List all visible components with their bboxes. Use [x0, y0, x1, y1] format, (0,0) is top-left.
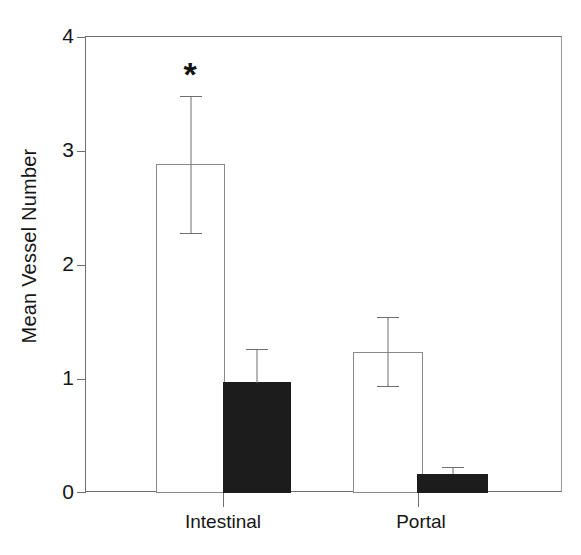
y-tick-mark-2 [77, 265, 86, 266]
error-bar-cap-upper [377, 317, 399, 318]
y-tick-label-2: 2 [40, 252, 74, 276]
error-bar-stem [257, 349, 258, 383]
plot-area: * Intestinal Portal [85, 36, 562, 492]
bar-portal-open [353, 352, 423, 493]
x-tick-mark-portal [418, 493, 419, 507]
error-bar-cap-upper [442, 467, 464, 468]
bar-intestinal-open [156, 164, 225, 494]
bar-chart-figure: Mean Vessel Number 4 3 2 1 0 [0, 0, 581, 555]
x-category-label-intestinal: Intestinal [185, 511, 261, 533]
y-tick-mark-0 [77, 492, 86, 493]
error-bar-portal-filled [417, 37, 488, 493]
error-bar-cap-upper [246, 349, 268, 350]
error-bar-cap-upper [180, 96, 202, 97]
y-tick-mark-1 [77, 379, 86, 380]
x-tick-mark-intestinal [223, 493, 224, 507]
y-tick-mark-4 [77, 37, 86, 38]
y-tick-label-3: 3 [40, 138, 74, 162]
x-category-label-portal: Portal [396, 511, 446, 533]
y-tick-label-1: 1 [40, 366, 74, 390]
y-tick-label-0: 0 [40, 480, 74, 504]
y-tick-mark-3 [77, 151, 86, 152]
bar-portal-filled [417, 474, 488, 493]
significance-asterisk: * [183, 57, 196, 91]
y-axis-label: Mean Vessel Number [14, 0, 44, 492]
bar-intestinal-filled [223, 382, 291, 493]
y-tick-label-4: 4 [40, 24, 74, 48]
